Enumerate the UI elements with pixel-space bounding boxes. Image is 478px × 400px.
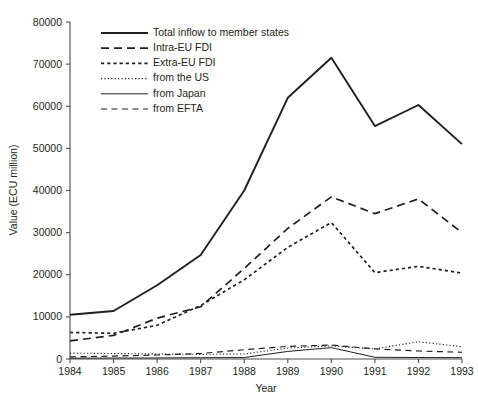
legend-item-label: from EFTA bbox=[153, 102, 203, 114]
x-tick-label: 1985 bbox=[102, 365, 126, 377]
series-line bbox=[70, 58, 462, 315]
x-tick-label: 1986 bbox=[145, 365, 169, 377]
data-series-group bbox=[70, 58, 462, 358]
y-tick-label: 70000 bbox=[33, 58, 62, 70]
series-line bbox=[70, 223, 462, 334]
y-tick-label: 20000 bbox=[33, 268, 62, 280]
y-tick-label: 60000 bbox=[33, 100, 62, 112]
y-axis-title: Value (ECU million) bbox=[7, 145, 19, 236]
chart-legend: Total inflow to member statesIntra-EU FD… bbox=[101, 26, 289, 114]
y-tick-label: 0 bbox=[56, 353, 62, 365]
legend-item-label: from Japan bbox=[153, 87, 206, 99]
x-tick-label: 1987 bbox=[189, 365, 213, 377]
x-tick-label: 1991 bbox=[363, 365, 387, 377]
x-axis-title: Year bbox=[255, 382, 277, 394]
series-line bbox=[70, 348, 462, 359]
x-tick-label: 1988 bbox=[233, 365, 257, 377]
legend-item-label: Extra-EU FDI bbox=[153, 56, 215, 68]
x-tick-label: 1992 bbox=[407, 365, 431, 377]
y-tick-label: 50000 bbox=[33, 142, 62, 154]
y-tick-label: 80000 bbox=[33, 16, 62, 28]
y-axis-ticks: 0100002000030000400005000060000700008000… bbox=[33, 16, 70, 365]
axes bbox=[70, 22, 462, 359]
y-tick-label: 10000 bbox=[33, 310, 62, 322]
x-tick-label: 1989 bbox=[276, 365, 300, 377]
x-tick-label: 1990 bbox=[320, 365, 344, 377]
y-tick-label: 30000 bbox=[33, 226, 62, 238]
y-tick-label: 40000 bbox=[33, 184, 62, 196]
legend-item-label: Total inflow to member states bbox=[153, 26, 289, 38]
line-chart: 0100002000030000400005000060000700008000… bbox=[0, 0, 478, 400]
x-axis-ticks: 1984198519861987198819891990199119921993 bbox=[58, 359, 474, 377]
legend-item-label: from the US bbox=[153, 71, 209, 83]
series-line bbox=[70, 342, 462, 355]
chart-container: 0100002000030000400005000060000700008000… bbox=[0, 0, 478, 400]
legend-item-label: Intra-EU FDI bbox=[153, 41, 212, 53]
series-line bbox=[70, 345, 462, 357]
x-tick-label: 1993 bbox=[450, 365, 474, 377]
x-tick-label: 1984 bbox=[58, 365, 82, 377]
